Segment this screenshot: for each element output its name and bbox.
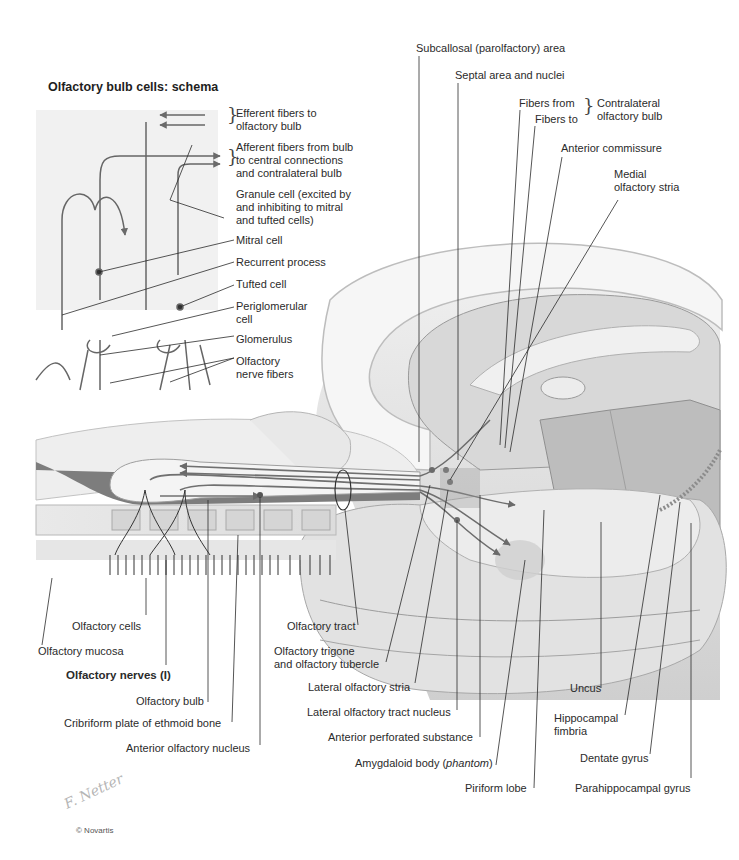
inset-title: Olfactory bulb cells: schema bbox=[48, 80, 218, 94]
copyright-notice: © Novartis bbox=[76, 826, 113, 835]
label-olfactory-nerve-fibers: Olfactory nerve fibers bbox=[236, 355, 293, 381]
amygdaloid-phantom: phantom bbox=[446, 757, 489, 769]
label-recurrent-process: Recurrent process bbox=[236, 256, 326, 269]
label-anterior-commissure: Anterior commissure bbox=[561, 142, 662, 155]
label-olfactory-mucosa: Olfactory mucosa bbox=[38, 645, 124, 658]
label-fibers-to: Fibers to bbox=[535, 113, 578, 126]
amygdaloid-close: ) bbox=[489, 757, 493, 769]
label-olfactory-cells: Olfactory cells bbox=[72, 620, 141, 633]
cribriform-and-mucosa bbox=[36, 490, 336, 575]
label-tufted-cell: Tufted cell bbox=[236, 278, 286, 291]
label-mitral-cell: Mitral cell bbox=[236, 234, 282, 247]
label-olfactory-trigone: Olfactory trigone and olfactory tubercle bbox=[274, 645, 379, 671]
label-periglomerular-cell: Periglomerular cell bbox=[236, 300, 308, 326]
label-uncus: Uncus bbox=[570, 682, 601, 695]
label-amygdaloid-body: Amygdaloid body (phantom) bbox=[355, 757, 493, 770]
label-efferent-fibers-1: Efferent fibers to bbox=[236, 107, 317, 120]
label-afferent-fibers-1: Afferent fibers from bulb bbox=[236, 141, 353, 154]
label-granule-cell: Granule cell (excited by and inhibiting … bbox=[236, 188, 351, 227]
label-medial-olfactory-stria: Medial olfactory stria bbox=[614, 168, 679, 194]
label-efferent-fibers-2: olfactory bulb bbox=[236, 120, 301, 133]
label-anterior-perforated-substance: Anterior perforated substance bbox=[328, 731, 473, 744]
label-glomerulus: Glomerulus bbox=[236, 333, 292, 346]
label-dentate-gyrus: Dentate gyrus bbox=[580, 752, 648, 765]
label-septal-area: Septal area and nuclei bbox=[455, 69, 564, 82]
label-parahippocampal-gyrus: Parahippocampal gyrus bbox=[575, 782, 691, 795]
label-subcallosal-area: Subcallosal (parolfactory) area bbox=[416, 42, 565, 55]
label-olfactory-bulb: Olfactory bulb bbox=[136, 695, 204, 708]
label-contralateral-bulb: Contralateral olfactory bulb bbox=[597, 97, 662, 123]
label-fibers-from: Fibers from bbox=[519, 97, 575, 110]
label-olfactory-tract: Olfactory tract bbox=[287, 620, 355, 633]
label-cribriform-plate: Cribriform plate of ethmoid bone bbox=[64, 717, 221, 730]
label-afferent-fibers-3: and contralateral bulb bbox=[236, 167, 342, 180]
label-piriform-lobe: Piriform lobe bbox=[465, 782, 527, 795]
label-lateral-olfactory-tract-nucleus: Lateral olfactory tract nucleus bbox=[307, 706, 451, 719]
label-afferent-fibers-2: to central connections bbox=[236, 154, 343, 167]
label-hippocampal-fimbria: Hippocampal fimbria bbox=[554, 712, 618, 738]
amygdaloid-text: Amygdaloid body ( bbox=[355, 757, 446, 769]
label-olfactory-nerves: Olfactory nerves (I) bbox=[66, 669, 171, 682]
brace-contralateral: } bbox=[583, 97, 594, 115]
label-lateral-olfactory-stria: Lateral olfactory stria bbox=[308, 681, 410, 694]
label-anterior-olfactory-nucleus: Anterior olfactory nucleus bbox=[126, 742, 250, 755]
